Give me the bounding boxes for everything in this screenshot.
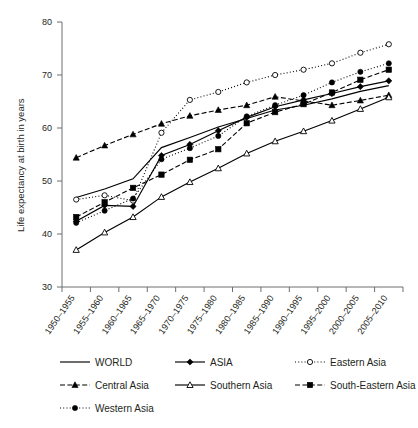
y-tick-label: 40 [42,229,52,239]
data-point-marker [102,208,107,213]
data-point-marker [386,61,391,66]
legend-label: Western Asia [95,403,154,414]
data-point-marker [159,157,164,162]
data-point-marker [272,109,277,114]
data-point-marker [159,172,164,177]
data-point-marker [301,93,306,98]
data-point-marker [244,80,249,85]
data-point-marker [216,133,221,138]
y-tick-label: 30 [42,282,52,292]
data-point-marker [273,72,278,77]
data-point-marker [358,77,363,82]
chart-figure: Life expectancy at birth in years 304050… [0,0,418,428]
data-point-marker [72,405,77,410]
data-point-marker [187,157,192,162]
data-point-marker [329,80,334,85]
data-point-marker [216,89,221,94]
data-point-marker [358,69,363,74]
data-point-marker [307,382,312,387]
life-expectancy-chart: Life expectancy at birth in years 304050… [0,0,418,428]
data-point-marker [386,67,391,72]
y-tick-label: 70 [42,70,52,80]
data-point-marker [329,90,334,95]
legend-label: South-Eastern Asia [330,380,416,391]
data-point-marker [386,42,391,47]
data-point-marker [74,214,79,219]
data-point-marker [159,130,164,135]
data-point-marker [358,50,363,55]
y-axis-title: Life expectancy at birth in years [15,98,26,232]
data-point-marker [329,61,334,66]
data-point-marker [244,114,249,119]
data-point-marker [244,121,249,126]
data-point-marker [102,200,107,205]
data-point-marker [102,193,107,198]
y-tick-label: 80 [42,17,52,27]
data-point-marker [216,147,221,152]
data-point-marker [273,103,278,108]
data-point-marker [130,185,135,190]
data-point-marker [307,359,312,364]
data-point-marker [301,67,306,72]
legend-label: Southern Asia [210,380,273,391]
y-tick-label: 50 [42,176,52,186]
data-point-marker [74,220,79,225]
data-point-marker [187,97,192,102]
legend-label: WORLD [95,357,132,368]
legend-label: Eastern Asia [330,357,387,368]
data-point-marker [187,146,192,151]
data-point-marker [301,101,306,106]
y-tick-label: 60 [42,123,52,133]
legend-label: Central Asia [95,380,149,391]
data-point-marker [130,196,135,201]
legend-label: ASIA [210,357,233,368]
data-point-marker [74,197,79,202]
